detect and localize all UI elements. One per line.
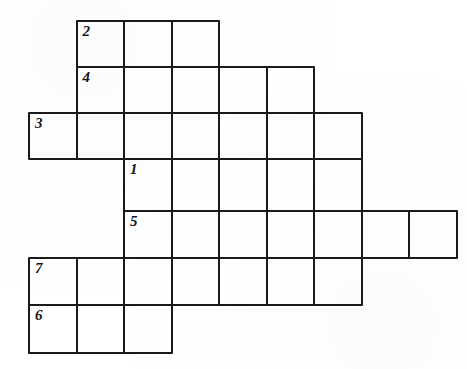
crossword-cell-r1-c4[interactable] [218, 66, 268, 114]
crossword-cell-r6-c1[interactable] [76, 304, 126, 354]
crossword-cell-r2-c1[interactable] [76, 112, 126, 160]
crossword-cell-r3-c4[interactable] [218, 158, 268, 212]
crossword-cell-r0-c1[interactable]: 2 [76, 20, 126, 68]
clue-number-4: 4 [83, 69, 91, 86]
crossword-cell-r1-c2[interactable] [123, 66, 173, 114]
crossword-cell-r4-c3[interactable] [171, 210, 221, 259]
crossword-cell-r6-c2[interactable] [123, 304, 173, 354]
crossword-cell-r5-c6[interactable] [313, 257, 363, 306]
crossword-cell-r4-c8[interactable] [408, 210, 458, 259]
crossword-cell-r2-c3[interactable] [171, 112, 221, 160]
crossword-cell-r5-c5[interactable] [266, 257, 316, 306]
crossword-cell-r5-c1[interactable] [76, 257, 126, 306]
crossword-cell-r5-c2[interactable] [123, 257, 173, 306]
clue-number-6: 6 [35, 307, 43, 324]
crossword-cell-r4-c7[interactable] [361, 210, 411, 259]
crossword-cell-r2-c5[interactable] [266, 112, 316, 160]
clue-number-2: 2 [83, 23, 91, 40]
crossword-cell-r1-c3[interactable] [171, 66, 221, 114]
crossword-cell-r6-c0[interactable]: 6 [28, 304, 78, 354]
crossword-cell-r2-c6[interactable] [313, 112, 363, 160]
crossword-cell-r4-c2[interactable]: 5 [123, 210, 173, 259]
clue-number-3: 3 [35, 115, 43, 132]
crossword-cell-r3-c5[interactable] [266, 158, 316, 212]
crossword-cell-r4-c4[interactable] [218, 210, 268, 259]
crossword-cell-r0-c2[interactable] [123, 20, 173, 68]
crossword-cell-r1-c1[interactable]: 4 [76, 66, 126, 114]
crossword-cell-r3-c2[interactable]: 1 [123, 158, 173, 212]
clue-number-1: 1 [130, 161, 138, 178]
crossword-cell-r4-c5[interactable] [266, 210, 316, 259]
clue-number-7: 7 [35, 260, 43, 277]
crossword-cell-r5-c4[interactable] [218, 257, 268, 306]
crossword-cell-r2-c0[interactable]: 3 [28, 112, 78, 160]
crossword-cell-r1-c5[interactable] [266, 66, 316, 114]
crossword-cell-r3-c6[interactable] [313, 158, 363, 212]
crossword-cell-r5-c0[interactable]: 7 [28, 257, 78, 306]
crossword-cell-r3-c3[interactable] [171, 158, 221, 212]
crossword-cell-r2-c2[interactable] [123, 112, 173, 160]
crossword-cell-r2-c4[interactable] [218, 112, 268, 160]
crossword-cell-r0-c3[interactable] [171, 20, 221, 68]
crossword-cell-r4-c6[interactable] [313, 210, 363, 259]
clue-number-5: 5 [130, 213, 138, 230]
crossword-grid: 2431576 [0, 0, 467, 369]
crossword-cell-r5-c3[interactable] [171, 257, 221, 306]
